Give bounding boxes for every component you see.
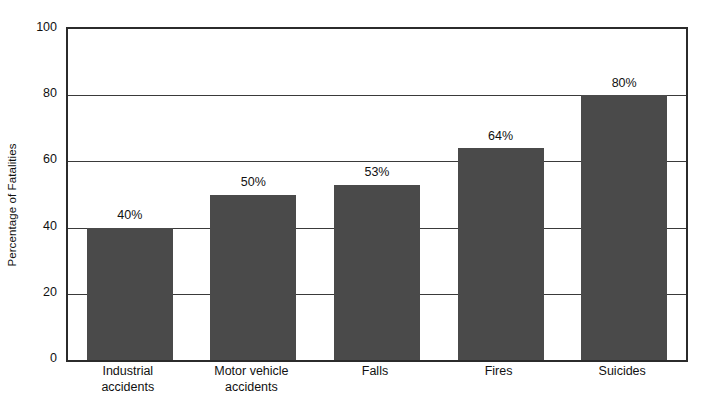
- bar-value-label: 40%: [87, 209, 173, 222]
- bar-slot: 80%: [581, 29, 667, 360]
- bar-value-label: 80%: [581, 77, 667, 90]
- bar-slot: 53%: [334, 29, 420, 360]
- y-axis-tick-labels: 020406080100: [24, 0, 62, 409]
- y-axis-tick-label: 0: [24, 352, 62, 365]
- category-label-line: Fires: [485, 364, 513, 378]
- bar-slot: 40%: [87, 29, 173, 360]
- x-axis-category-label: Motor vehicleaccidents: [190, 364, 314, 395]
- bar-slot: 50%: [210, 29, 296, 360]
- bar[interactable]: [210, 195, 296, 361]
- category-label-line: accidents: [190, 380, 314, 396]
- y-axis-title-text: Percentage of Fatalities: [6, 143, 18, 266]
- category-label-line: Motor vehicle: [214, 364, 288, 378]
- bar-value-label: 53%: [334, 166, 420, 179]
- y-axis-tick-label: 100: [24, 21, 62, 34]
- bar[interactable]: [87, 228, 173, 360]
- y-axis-tick-label: 80: [24, 87, 62, 100]
- bar-chart: Percentage of Fatalities 020406080100 40…: [0, 0, 701, 409]
- x-axis-category-label: Falls: [313, 364, 437, 380]
- category-label-line: Falls: [362, 364, 388, 378]
- bar-slot: 64%: [458, 29, 544, 360]
- bar-value-label: 50%: [210, 176, 296, 189]
- x-axis-category-label: Fires: [437, 364, 561, 380]
- x-axis-category-label: Suicides: [560, 364, 684, 380]
- category-label-line: Suicides: [599, 364, 646, 378]
- category-label-line: accidents: [66, 380, 190, 396]
- bars-layer: 40%50%53%64%80%: [68, 29, 686, 360]
- x-axis-category-labels: IndustrialaccidentsMotor vehicleaccident…: [66, 364, 684, 409]
- y-axis-title: Percentage of Fatalities: [0, 0, 24, 409]
- plot-area: 40%50%53%64%80%: [66, 27, 688, 362]
- bar[interactable]: [581, 95, 667, 360]
- bar[interactable]: [458, 148, 544, 360]
- category-label-line: Industrial: [102, 364, 153, 378]
- x-axis-category-label: Industrialaccidents: [66, 364, 190, 395]
- y-axis-tick-label: 20: [24, 286, 62, 299]
- bar[interactable]: [334, 185, 420, 360]
- y-axis-tick-label: 60: [24, 153, 62, 166]
- y-axis-tick-label: 40: [24, 219, 62, 232]
- bar-value-label: 64%: [458, 130, 544, 143]
